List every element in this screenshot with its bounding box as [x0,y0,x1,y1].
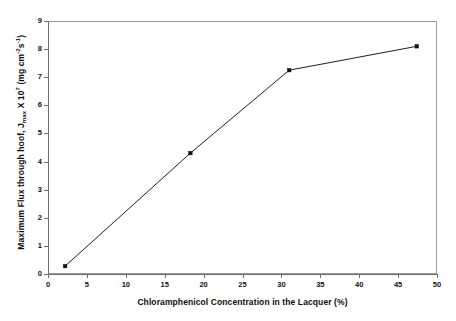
x-tick-mark [437,274,438,278]
y-axis-title: Maximum Flux through hoof, Jmax X 107 (m… [15,17,28,267]
x-tick-mark [359,274,360,278]
y-axis-title-sup-time: -1 [15,38,21,44]
y-tick-label: 0 [12,270,42,278]
x-tick-mark [281,274,282,278]
x-tick-label: 50 [422,280,452,289]
x-tick-label: 25 [228,280,258,289]
y-axis-title-lead: Maximum Flux through hoof, J [16,123,26,250]
x-tick-label: 35 [305,280,335,289]
y-axis-title-unit-open: (mg cm [16,54,26,87]
y-tick-mark [44,105,48,106]
y-tick-mark [44,246,48,247]
y-tick-mark [44,190,48,191]
x-tick-label: 45 [383,280,413,289]
y-tick-mark [44,162,48,163]
x-tick-mark [48,274,49,278]
y-axis-title-sub-max: max [21,111,27,123]
y-tick-mark [44,21,48,22]
y-axis-title-sup-exp: 7 [15,87,21,90]
x-tick-mark [87,274,88,278]
x-tick-mark [204,274,205,278]
y-tick-mark [44,133,48,134]
x-tick-label: 30 [266,280,296,289]
chart-title [0,0,456,7]
x-tick-label: 20 [189,280,219,289]
y-axis-title-unit-close: ) [16,35,26,38]
y-axis-line [48,21,49,275]
x-tick-mark [398,274,399,278]
y-tick-mark [44,49,48,50]
y-axis-title-unit-s: s [16,43,26,48]
x-tick-label: 15 [150,280,180,289]
plot-area [48,21,437,274]
x-axis-title: Chloramphenicol Concentration in the Lac… [48,297,437,307]
chart-figure: 0123456789 05101520253035404550 Maximum … [0,0,456,321]
y-tick-mark [44,77,48,78]
y-tick-mark [44,218,48,219]
x-tick-mark [243,274,244,278]
y-axis-title-sup-area: -2 [15,48,21,54]
x-tick-mark [165,274,166,278]
x-tick-label: 10 [111,280,141,289]
y-axis-title-mid: X 10 [16,90,26,110]
x-tick-mark [320,274,321,278]
x-tick-label: 5 [72,280,102,289]
x-tick-label: 40 [344,280,374,289]
x-tick-mark [126,274,127,278]
x-tick-label: 0 [33,280,63,289]
